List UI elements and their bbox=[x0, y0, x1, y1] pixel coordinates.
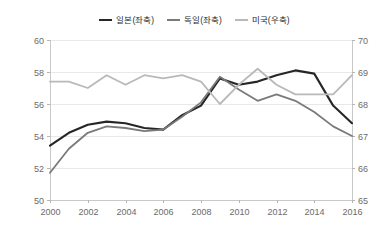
y-axis-left-tick-label: 60 bbox=[34, 36, 44, 46]
y-axis-right-tick-label: 68 bbox=[358, 100, 368, 110]
x-axis-labels: 200020022004200620082010201220142016 bbox=[40, 207, 362, 217]
gridlines bbox=[50, 41, 352, 201]
y-axis-right-tick-label: 67 bbox=[358, 132, 368, 142]
series-line-2 bbox=[50, 69, 352, 104]
x-axis-tick-label: 2014 bbox=[304, 207, 324, 217]
y-axis-left-tick-label: 56 bbox=[34, 100, 44, 110]
y-axis-left-tick-label: 50 bbox=[34, 196, 44, 206]
x-axis-tick-label: 2004 bbox=[116, 207, 136, 217]
y-axis-left-tick-label: 52 bbox=[34, 164, 44, 174]
x-axis-tick-label: 2002 bbox=[78, 207, 98, 217]
left-axis-labels: 505254565860 bbox=[34, 36, 44, 206]
y-axis-right-tick-label: 65 bbox=[358, 196, 368, 206]
x-axis-tick-label: 2012 bbox=[267, 207, 287, 217]
series-line-1 bbox=[50, 77, 352, 173]
y-axis-right-tick-label: 69 bbox=[358, 68, 368, 78]
series-lines bbox=[50, 69, 352, 173]
right-axis-labels: 656667686970 bbox=[358, 36, 368, 206]
chart-container: 일본(좌축) 독일(좌축) 미국(우축) 505254565860 656667… bbox=[0, 0, 389, 230]
x-axis-tick-label: 2010 bbox=[229, 207, 249, 217]
x-axis-tick-label: 2006 bbox=[153, 207, 173, 217]
x-axis-tick-label: 2000 bbox=[40, 207, 60, 217]
y-axis-left-tick-label: 54 bbox=[34, 132, 44, 142]
y-axis-right-tick-label: 66 bbox=[358, 164, 368, 174]
y-axis-right-tick-label: 70 bbox=[358, 36, 368, 46]
x-axis-tick-label: 2008 bbox=[191, 207, 211, 217]
axes bbox=[50, 40, 353, 201]
chart-plot: 505254565860 656667686970 20002002200420… bbox=[0, 0, 389, 230]
x-axis-tick-label: 2016 bbox=[342, 207, 362, 217]
tick-marks bbox=[47, 41, 355, 204]
y-axis-left-tick-label: 58 bbox=[34, 68, 44, 78]
